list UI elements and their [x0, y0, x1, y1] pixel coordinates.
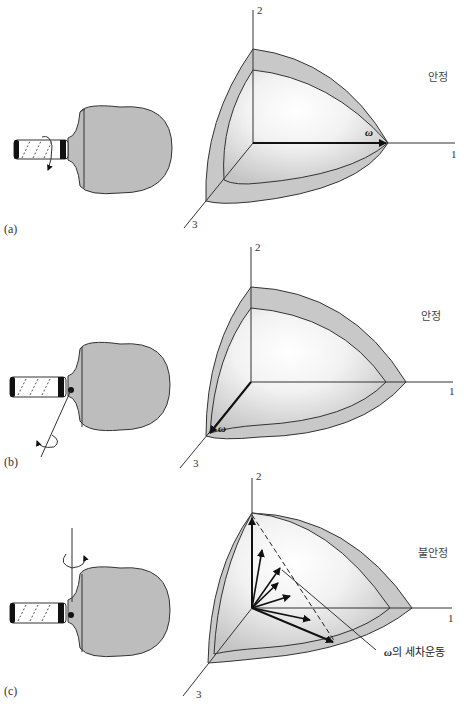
panel-b: 2 1 3 안정 ω (b): [0, 235, 465, 470]
axis-1-label: 1: [451, 148, 457, 160]
omega-symbol: ω: [384, 646, 392, 658]
panel-a: 2 1 3 안정 ω (a): [0, 0, 465, 235]
panel-c: 2 1 3 불안정 ω의 세차운동 (c): [0, 470, 465, 717]
ellipsoid-diagram: [183, 478, 452, 696]
paddle-icon: [10, 342, 170, 457]
omega-label: ω: [365, 126, 373, 138]
axis-3-label: 3: [196, 688, 202, 700]
ellipsoid-diagram: [184, 10, 455, 228]
panel-b-drawing: [0, 235, 465, 470]
axis-3-label: 3: [193, 457, 199, 469]
axis-1-label: 1: [448, 612, 454, 624]
precession-label: ω의 세차운동: [384, 643, 445, 659]
axis-2-label: 2: [255, 241, 261, 253]
stability-label: 안정: [428, 68, 448, 84]
omega-label: ω: [218, 422, 226, 434]
axis-2-label: 2: [256, 470, 262, 482]
panel-label: (c): [4, 684, 17, 699]
ellipsoid-diagram: [180, 247, 453, 468]
paddle-icon: [14, 106, 172, 194]
panel-a-drawing: [0, 0, 465, 235]
paddle-icon: [10, 528, 170, 657]
panel-label: (b): [4, 455, 18, 470]
axis-3-label: 3: [192, 218, 198, 230]
axis-1-label: 1: [449, 385, 455, 397]
stability-label: 안정: [421, 307, 441, 323]
stability-label: 불안정: [418, 544, 448, 560]
panel-c-drawing: [0, 470, 465, 717]
precession-text: 의 세차운동: [392, 646, 446, 659]
axis-2-label: 2: [257, 4, 263, 16]
